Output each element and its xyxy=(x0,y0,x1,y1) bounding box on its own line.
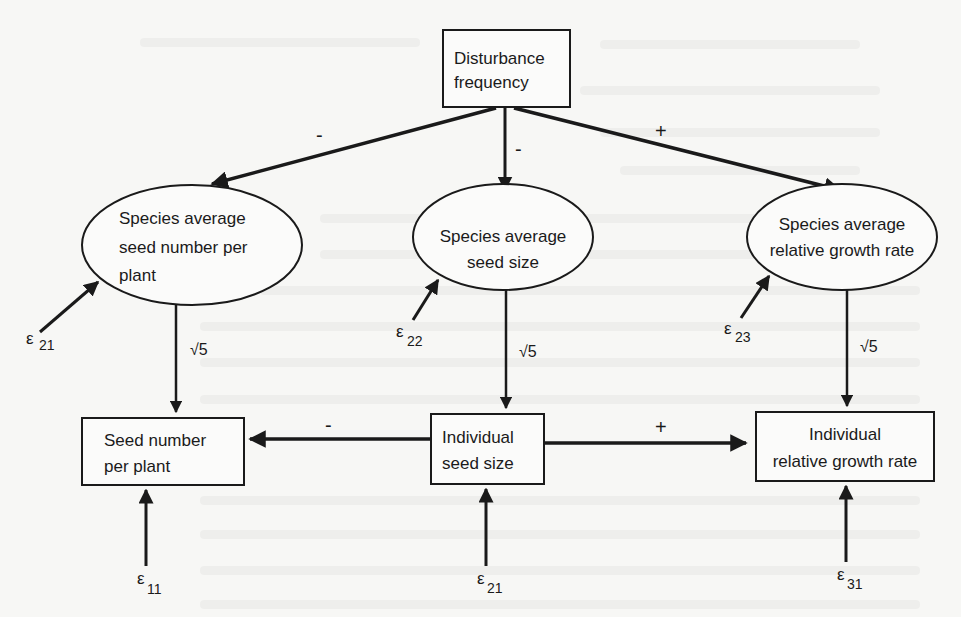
node-species-average-seed-size: Species average seed size xyxy=(413,184,593,290)
svg-text:relative growth rate: relative growth rate xyxy=(773,452,918,471)
svg-text:Species average: Species average xyxy=(779,215,906,234)
edge-sign-minus: - xyxy=(515,138,522,160)
svg-text:Individual: Individual xyxy=(442,428,514,447)
svg-text:Species average: Species average xyxy=(440,227,567,246)
node-individual-relative-growth-rate: Individual relative growth rate xyxy=(756,412,934,481)
svg-text:22: 22 xyxy=(407,333,423,349)
error-term-epsilon-21-species: ε 21 xyxy=(26,282,98,353)
svg-text:frequency: frequency xyxy=(454,73,529,92)
edge-label-sqrt5: √5 xyxy=(519,343,537,360)
edge-sign-plus: + xyxy=(655,120,667,142)
svg-text:11: 11 xyxy=(147,581,162,597)
error-term-epsilon-23: ε 23 xyxy=(724,276,769,345)
path-diagram: - - + Disturbance frequency Species aver… xyxy=(0,0,961,617)
svg-text:ε: ε xyxy=(477,569,485,588)
svg-text:Disturbance: Disturbance xyxy=(454,49,545,68)
node-disturbance-frequency: Disturbance frequency xyxy=(443,30,570,107)
svg-text:plant: plant xyxy=(119,266,156,285)
svg-text:seed number per: seed number per xyxy=(119,238,248,257)
error-term-epsilon-11: ε 11 xyxy=(137,490,162,597)
node-species-average-seed-number: Species average seed number per plant xyxy=(82,185,302,305)
edge-species-seed-number-to-seed-number: √5 xyxy=(176,305,208,412)
svg-text:relative growth rate: relative growth rate xyxy=(770,241,915,260)
edge-disturbance-to-species-seed-size: - xyxy=(505,108,522,190)
error-term-epsilon-31: ε 31 xyxy=(837,486,863,592)
error-term-epsilon-22: ε 22 xyxy=(396,280,438,349)
svg-text:per plant: per plant xyxy=(104,457,170,476)
svg-text:ε: ε xyxy=(137,569,145,588)
node-seed-number-per-plant: Seed number per plant xyxy=(82,418,244,485)
svg-text:ε: ε xyxy=(396,322,404,341)
svg-text:seed size: seed size xyxy=(467,253,539,272)
edge-individual-seed-size-to-individual-rgr: + xyxy=(544,416,746,443)
svg-text:ε: ε xyxy=(837,565,845,584)
edge-species-rgr-to-individual-rgr: √5 xyxy=(847,290,878,406)
svg-text:ε: ε xyxy=(724,319,732,338)
edge-disturbance-to-species-seed-number: - xyxy=(212,108,496,184)
node-individual-seed-size: Individual seed size xyxy=(431,414,544,484)
svg-text:21: 21 xyxy=(487,580,503,596)
edge-species-seed-size-to-individual-seed-size: √5 xyxy=(506,290,537,408)
edge-individual-seed-size-to-seed-number: - xyxy=(250,414,431,439)
svg-text:31: 31 xyxy=(847,576,863,592)
edge-sign-minus: - xyxy=(316,124,323,146)
node-species-average-rgr: Species average relative growth rate xyxy=(747,184,937,290)
svg-text:23: 23 xyxy=(735,329,751,345)
edge-label-sqrt5: √5 xyxy=(860,338,878,355)
svg-text:Individual: Individual xyxy=(809,425,881,444)
edge-sign-plus: + xyxy=(655,416,667,438)
svg-text:Seed number: Seed number xyxy=(104,431,206,450)
svg-text:21: 21 xyxy=(39,337,55,353)
svg-text:ε: ε xyxy=(26,329,34,348)
error-term-epsilon-21-individual: ε 21 xyxy=(477,489,503,596)
edge-disturbance-to-species-rgr: + xyxy=(514,108,840,190)
edge-label-sqrt5: √5 xyxy=(190,341,208,358)
svg-text:Species average: Species average xyxy=(119,209,246,228)
edge-sign-minus: - xyxy=(325,414,332,436)
svg-text:seed size: seed size xyxy=(442,454,514,473)
